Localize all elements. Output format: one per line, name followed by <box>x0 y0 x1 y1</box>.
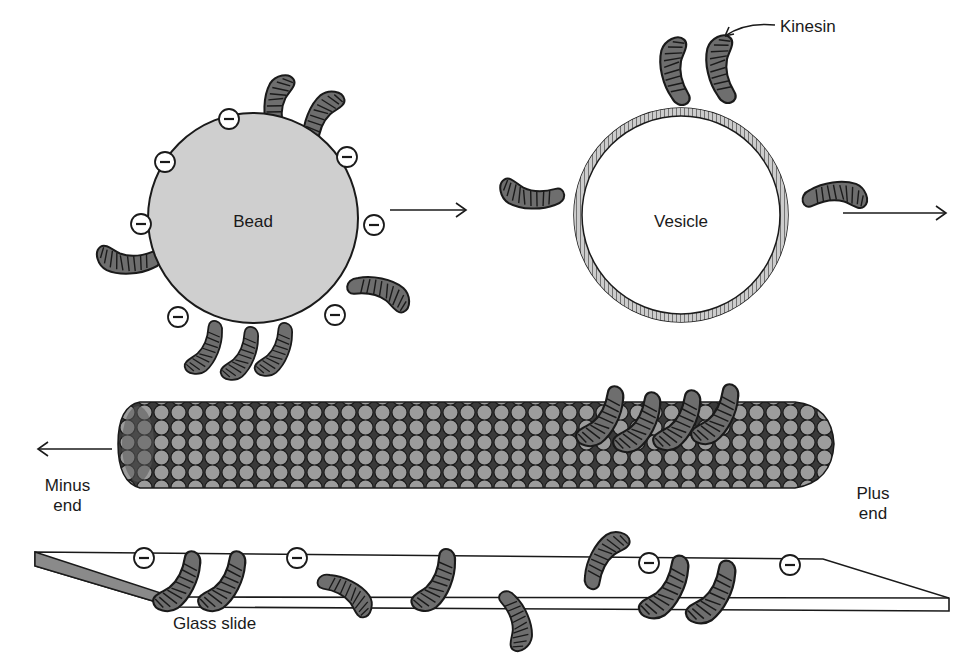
vesicle <box>499 33 869 459</box>
negative-charge-icon <box>219 109 239 129</box>
plus-end-label-line1: Plus <box>848 484 898 504</box>
negative-charge-icon <box>287 548 307 568</box>
glass-slide-label: Glass slide <box>173 614 256 634</box>
negative-charge-icon <box>325 305 345 325</box>
minus-end-label-line1: Minus <box>30 476 105 496</box>
minus-end-label: Minus end <box>30 476 105 516</box>
negative-charge-icon <box>168 307 188 327</box>
negative-charge-icon <box>131 214 151 234</box>
kinesin-label: Kinesin <box>780 17 836 37</box>
kinesin-motility-diagram <box>0 0 976 663</box>
minus-end-arrow <box>38 442 112 456</box>
negative-charge-icon <box>337 147 357 167</box>
negative-charge-icon <box>155 152 175 172</box>
negative-charge-icon <box>134 548 154 568</box>
bead-direction-arrow <box>390 203 466 217</box>
vesicle-label: Vesicle <box>636 212 726 232</box>
plus-end-label-line2: end <box>848 504 898 524</box>
negative-charge-icon <box>639 553 659 573</box>
minus-end-label-line2: end <box>30 496 105 516</box>
bead-label: Bead <box>213 212 293 232</box>
plus-end-label: Plus end <box>848 484 898 524</box>
negative-charge-icon <box>364 215 384 235</box>
negative-charge-icon <box>780 555 800 575</box>
